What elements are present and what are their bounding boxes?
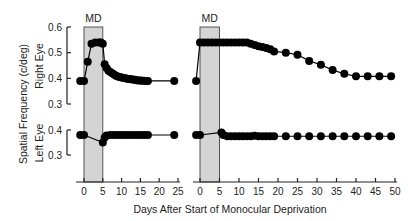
spatial-frequency-chart: MDMD 0.30.40.50.60.30.405101520250510152… — [0, 0, 419, 221]
data-point — [170, 77, 178, 85]
data-point — [282, 49, 290, 57]
data-point — [196, 131, 204, 139]
data-point — [352, 132, 360, 140]
data-point — [192, 77, 200, 85]
x-tick-label: 10 — [116, 186, 128, 197]
y-tick-label: 0.3 — [48, 150, 62, 161]
y-tick-label: 0.3 — [48, 99, 62, 110]
y-tick-label: 0.4 — [48, 73, 62, 84]
data-point — [99, 40, 107, 48]
md-shade — [84, 27, 103, 182]
left-eye-label: Left Eye — [33, 124, 45, 163]
data-point — [144, 131, 152, 139]
right-eye-label: Right Eye — [33, 43, 45, 89]
data-point — [144, 77, 152, 85]
data-point — [375, 72, 383, 80]
data-point — [317, 61, 325, 69]
data-point — [282, 132, 290, 140]
data-point — [387, 132, 395, 140]
data-point — [80, 77, 88, 85]
data-point — [84, 58, 92, 66]
y-tick-label: 0.4 — [48, 125, 62, 136]
data-point — [364, 72, 372, 80]
data-point — [294, 132, 302, 140]
data-point — [317, 132, 325, 140]
x-tick-label: 5 — [100, 186, 106, 197]
data-point — [364, 132, 372, 140]
data-point — [80, 131, 88, 139]
data-point — [170, 131, 178, 139]
y-axis-label: Spatial Frequency (c/deg) — [17, 44, 29, 164]
data-point — [305, 132, 313, 140]
x-tick-label: 30 — [311, 186, 323, 197]
data-point — [329, 66, 337, 74]
data-series — [76, 38, 395, 146]
data-point — [270, 132, 278, 140]
md-label: MD — [202, 12, 219, 24]
data-point — [352, 72, 360, 80]
data-point — [387, 72, 395, 80]
x-tick-label: 20 — [272, 186, 284, 197]
x-tick-label: 15 — [253, 186, 265, 197]
right-eye-line — [196, 42, 391, 81]
x-tick-label: 45 — [370, 186, 382, 197]
x-tick-label: 5 — [217, 186, 223, 197]
y-tick-label: 0.6 — [48, 22, 62, 33]
x-tick-label: 0 — [81, 186, 87, 197]
md-shaded-regions: MDMD — [84, 12, 220, 182]
x-tick-label: 50 — [389, 186, 401, 197]
x-tick-label: 35 — [331, 186, 343, 197]
data-point — [375, 132, 383, 140]
data-point — [270, 47, 278, 55]
x-tick-label: 0 — [197, 186, 203, 197]
md-shade — [200, 27, 220, 182]
y-tick-label: 0.5 — [48, 47, 62, 58]
data-point — [294, 51, 302, 59]
data-point — [305, 57, 313, 65]
data-point — [340, 132, 348, 140]
md-label: MD — [85, 12, 102, 24]
data-point — [340, 70, 348, 78]
x-tick-label: 25 — [292, 186, 304, 197]
data-point — [329, 132, 337, 140]
x-tick-label: 40 — [350, 186, 362, 197]
x-tick-label: 20 — [154, 186, 166, 197]
x-tick-label: 10 — [233, 186, 245, 197]
x-axis-label: Days After Start of Monocular Deprivatio… — [133, 203, 326, 215]
x-tick-label: 25 — [172, 186, 184, 197]
x-tick-label: 15 — [135, 186, 147, 197]
